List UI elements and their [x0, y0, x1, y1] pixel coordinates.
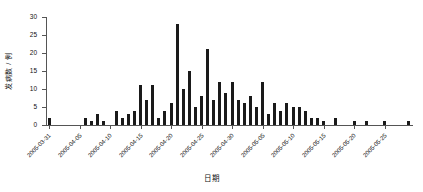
bar [273, 103, 276, 125]
bar [292, 107, 295, 125]
bar [90, 121, 93, 125]
bar [176, 24, 179, 125]
bar [121, 118, 124, 125]
bar [224, 93, 227, 125]
bar [316, 118, 319, 125]
y-axis-tick-label: 25 [30, 32, 37, 39]
x-axis-line [46, 125, 413, 126]
bar [285, 103, 288, 125]
y-axis-tick: 30 [42, 17, 46, 18]
y-axis-tick: 20 [42, 53, 46, 54]
y-axis-tick: 25 [42, 35, 46, 36]
x-axis-tick [263, 125, 264, 129]
bar [194, 107, 197, 125]
bar [279, 111, 282, 125]
x-axis-tick [354, 125, 355, 129]
y-axis-tick-label: 30 [30, 14, 37, 21]
bar [133, 111, 136, 125]
bar [206, 49, 209, 125]
bar [255, 107, 258, 125]
y-axis-tick-label: 10 [30, 86, 37, 93]
bar [298, 107, 301, 125]
bar [261, 82, 264, 125]
bar [151, 85, 154, 125]
bar [365, 121, 368, 125]
bar [243, 103, 246, 125]
bar [334, 118, 337, 125]
x-axis-tick [80, 125, 81, 129]
bar [170, 103, 173, 125]
bar [237, 100, 240, 125]
x-axis-tick [141, 125, 142, 129]
bar [188, 71, 191, 125]
bar [407, 121, 410, 125]
y-axis-tick-label: 0 [33, 122, 37, 129]
bar [102, 121, 105, 125]
x-axis-tick [202, 125, 203, 129]
bar [127, 114, 130, 125]
x-axis-tick [171, 125, 172, 129]
y-axis-tick-label: 15 [30, 68, 37, 75]
x-axis-tick [324, 125, 325, 129]
bar [212, 100, 215, 125]
plot-area: 0510152025302005-03-312005-04-052005-04-… [46, 17, 412, 125]
x-axis-tick [49, 125, 50, 129]
x-axis-tick [293, 125, 294, 129]
epidemic-curve-figure: 发病数 / 例 0510152025302005-03-312005-04-05… [0, 0, 423, 192]
y-axis-tick: 0 [42, 125, 46, 126]
y-axis-title-text: 发病数 / 例 [3, 52, 13, 89]
bar [218, 82, 221, 125]
y-axis-tick: 5 [42, 107, 46, 108]
x-axis-tick-label: 2005-05-25 [352, 132, 387, 167]
bar [304, 111, 307, 125]
x-axis-tick [110, 125, 111, 129]
bar [139, 85, 142, 125]
y-axis-title: 发病数 / 例 [2, 17, 14, 125]
y-axis-tick-label: 20 [30, 50, 37, 57]
bar [200, 96, 203, 125]
bar [231, 82, 234, 125]
y-axis-tick: 10 [42, 89, 46, 90]
x-axis-tick [232, 125, 233, 129]
bar [145, 100, 148, 125]
y-axis-tick-label: 5 [33, 104, 37, 111]
bar [182, 89, 185, 125]
bar [310, 118, 313, 125]
bar [48, 118, 51, 125]
bar [84, 118, 87, 125]
bar [163, 111, 166, 125]
bar [96, 114, 99, 125]
x-axis-tick [385, 125, 386, 129]
x-axis-title: 日期 [0, 172, 423, 183]
bar [249, 96, 252, 125]
y-axis-tick: 15 [42, 71, 46, 72]
bar [115, 111, 118, 125]
bar [157, 118, 160, 125]
bar [267, 114, 270, 125]
